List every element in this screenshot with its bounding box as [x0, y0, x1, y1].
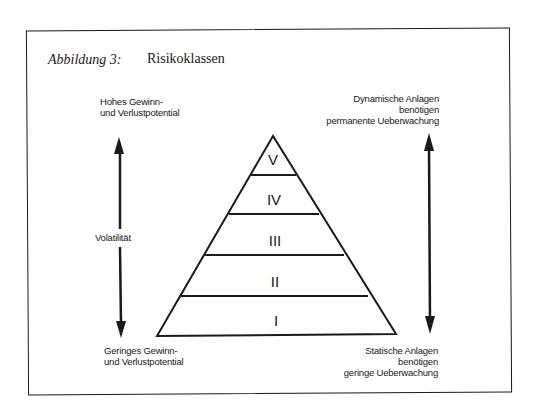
left-double-arrow-icon — [114, 137, 126, 338]
pyramid-level-1: I — [274, 312, 278, 329]
pyramid-level-3: III — [269, 232, 282, 249]
right-double-arrow-icon — [424, 133, 435, 334]
pyramid-level-4: IV — [267, 191, 281, 208]
risk-pyramid: V IV III II I — [157, 136, 396, 336]
diagram-canvas: V IV III II I — [0, 0, 540, 417]
pyramid-level-2: II — [271, 273, 279, 290]
pyramid-level-5: V — [268, 151, 278, 168]
